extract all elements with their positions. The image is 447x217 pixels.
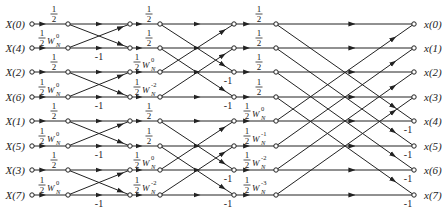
svg-text:1: 1 bbox=[245, 150, 250, 160]
node bbox=[232, 22, 236, 26]
input-label-1: X(4) bbox=[4, 42, 25, 55]
coef-label-s3-r4: 12W0N bbox=[244, 101, 267, 121]
svg-text:2: 2 bbox=[147, 38, 152, 48]
svg-text:W: W bbox=[142, 60, 151, 70]
node bbox=[158, 119, 162, 123]
output-label-3: x(3) bbox=[423, 91, 442, 104]
svg-text:2: 2 bbox=[40, 185, 45, 195]
neg-one-label-s2-r7: -1 bbox=[224, 198, 232, 209]
svg-text:0: 0 bbox=[56, 81, 59, 88]
node bbox=[158, 95, 162, 99]
node bbox=[158, 193, 162, 197]
node bbox=[128, 193, 132, 197]
node bbox=[128, 168, 132, 172]
neg-one-label-s1-r7: -1 bbox=[95, 198, 103, 209]
coef-label-s3-r0: 12 bbox=[256, 4, 263, 24]
svg-text:2: 2 bbox=[147, 111, 152, 121]
coef-label-s3-r1: 12 bbox=[256, 28, 263, 48]
node bbox=[274, 95, 278, 99]
svg-text:1: 1 bbox=[52, 101, 57, 111]
svg-text:2: 2 bbox=[257, 38, 262, 48]
node bbox=[128, 119, 132, 123]
svg-text:1: 1 bbox=[147, 126, 152, 136]
coef-label-s1-r1: 12W0N bbox=[39, 28, 62, 48]
node bbox=[232, 70, 236, 74]
svg-text:-2: -2 bbox=[151, 179, 156, 186]
coef-label-s2-r7: 12W-2N bbox=[134, 175, 157, 195]
node bbox=[128, 70, 132, 74]
svg-text:N: N bbox=[150, 188, 156, 195]
fft-flow-graph: X(0)X(4)X(2)X(6)X(1)X(5)X(3)X(7)x(0)x(1)… bbox=[0, 0, 447, 217]
coef-label-s2-r0: 12 bbox=[146, 4, 153, 24]
node bbox=[66, 144, 70, 148]
svg-text:0: 0 bbox=[261, 105, 264, 112]
neg-one-label-s3-r6: -1 bbox=[404, 173, 412, 184]
node bbox=[274, 193, 278, 197]
svg-text:1: 1 bbox=[52, 150, 57, 160]
neg-one-label-s1-r3: -1 bbox=[95, 100, 103, 111]
node bbox=[412, 46, 416, 50]
svg-text:2: 2 bbox=[40, 136, 45, 146]
node bbox=[66, 95, 70, 99]
svg-text:0: 0 bbox=[151, 56, 154, 63]
node bbox=[232, 95, 236, 99]
svg-text:1: 1 bbox=[257, 4, 262, 14]
node bbox=[30, 168, 34, 172]
svg-text:2: 2 bbox=[135, 62, 140, 72]
svg-text:1: 1 bbox=[135, 52, 140, 62]
labels: X(0)X(4)X(2)X(6)X(1)X(5)X(3)X(7)x(0)x(1)… bbox=[4, 4, 442, 209]
svg-text:2: 2 bbox=[135, 185, 140, 195]
node bbox=[412, 119, 416, 123]
node bbox=[128, 95, 132, 99]
svg-text:0: 0 bbox=[56, 130, 59, 137]
neg-one-label-s2-r2: -1 bbox=[224, 75, 232, 86]
svg-text:2: 2 bbox=[257, 62, 262, 72]
svg-text:1: 1 bbox=[52, 52, 57, 62]
svg-text:0: 0 bbox=[56, 179, 59, 186]
svg-text:N: N bbox=[260, 163, 266, 170]
input-label-4: X(1) bbox=[4, 115, 25, 128]
output-label-1: x(1) bbox=[423, 42, 442, 55]
svg-text:W: W bbox=[252, 109, 261, 119]
input-label-2: X(2) bbox=[4, 66, 25, 79]
input-label-6: X(3) bbox=[4, 164, 25, 177]
node bbox=[66, 70, 70, 74]
svg-text:W: W bbox=[142, 183, 151, 193]
output-label-5: x(5) bbox=[423, 140, 442, 153]
input-label-7: X(7) bbox=[4, 189, 25, 202]
svg-text:1: 1 bbox=[40, 77, 45, 87]
svg-text:N: N bbox=[260, 139, 266, 146]
node bbox=[274, 22, 278, 26]
node bbox=[412, 168, 416, 172]
node bbox=[232, 144, 236, 148]
svg-text:-2: -2 bbox=[151, 81, 156, 88]
node bbox=[30, 144, 34, 148]
svg-text:W: W bbox=[142, 158, 151, 168]
node bbox=[128, 46, 132, 50]
svg-text:2: 2 bbox=[257, 87, 262, 97]
svg-text:1: 1 bbox=[245, 175, 250, 185]
svg-text:0: 0 bbox=[151, 154, 154, 161]
neg-one-label-s2-r3: -1 bbox=[224, 100, 232, 111]
output-label-2: x(2) bbox=[423, 66, 442, 79]
node bbox=[158, 144, 162, 148]
node bbox=[128, 144, 132, 148]
svg-text:2: 2 bbox=[245, 136, 250, 146]
coef-label-s2-r4: 12 bbox=[146, 101, 153, 121]
node bbox=[232, 46, 236, 50]
node bbox=[128, 22, 132, 26]
node bbox=[232, 119, 236, 123]
svg-text:2: 2 bbox=[135, 160, 140, 170]
svg-text:W: W bbox=[47, 183, 56, 193]
svg-text:1: 1 bbox=[40, 175, 45, 185]
svg-text:2: 2 bbox=[52, 111, 57, 121]
coef-label-s2-r1: 12 bbox=[146, 28, 153, 48]
svg-text:2: 2 bbox=[245, 160, 250, 170]
node bbox=[30, 22, 34, 26]
neg-one-label-s1-r5: -1 bbox=[95, 149, 103, 160]
node bbox=[412, 22, 416, 26]
coef-label-s3-r6: 12W-2N bbox=[244, 150, 267, 170]
coef-label-s2-r6: 12W0N bbox=[134, 150, 157, 170]
svg-text:-3: -3 bbox=[261, 179, 266, 186]
svg-text:2: 2 bbox=[52, 160, 57, 170]
